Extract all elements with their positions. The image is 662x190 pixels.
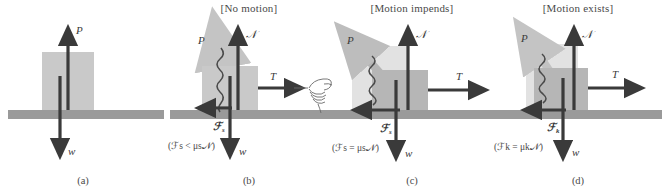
panel-b-formula: (ℱs < μs𝒩) xyxy=(168,140,215,152)
panel-b: [No motion] xyxy=(166,0,332,190)
label-n: 𝒩 xyxy=(416,28,430,40)
label-t: T xyxy=(270,70,277,82)
friction-figure: P w (a) [No motion] xyxy=(0,0,662,190)
panel-d: [Motion exists] xyxy=(494,0,662,190)
label-p: P xyxy=(197,34,205,46)
label-friction: ℱs xyxy=(213,120,225,134)
panel-c-caption: (c) xyxy=(330,175,494,186)
label-t: T xyxy=(456,70,463,82)
label-p: P xyxy=(75,24,83,36)
label-friction: ℱs xyxy=(380,122,392,136)
label-w: w xyxy=(68,145,76,157)
label-n: 𝒩 xyxy=(246,28,260,40)
panel-c-formula: (ℱs = μs𝒩) xyxy=(332,142,379,154)
panel-a-diagram: P w xyxy=(0,0,166,190)
label-p: P xyxy=(346,34,354,46)
panel-d-diagram: P 𝒩 T w ℱk xyxy=(494,0,662,190)
panel-d-caption: (d) xyxy=(494,175,662,186)
label-w: w xyxy=(405,147,413,159)
label-t: T xyxy=(612,68,619,80)
hand-illustration xyxy=(309,79,332,113)
label-p: P xyxy=(520,32,528,44)
label-w: w xyxy=(572,146,580,158)
ground-surface xyxy=(170,110,332,119)
panel-a-caption: (a) xyxy=(0,175,166,186)
ground-surface xyxy=(494,110,662,119)
panel-b-diagram: P 𝒩 T w ℱs xyxy=(166,0,332,190)
label-w: w xyxy=(239,145,247,157)
label-n: 𝒩 xyxy=(582,28,596,40)
ground-surface xyxy=(332,110,494,119)
panel-d-formula: (ℱk = μk𝒩) xyxy=(494,141,543,153)
panel-b-caption: (b) xyxy=(166,175,332,186)
label-friction: ℱk xyxy=(547,121,560,135)
panel-a: P w (a) xyxy=(0,0,166,190)
panel-c-diagram: P 𝒩 T w ℱs xyxy=(330,0,494,190)
panel-c: [Motion impends] xyxy=(330,0,494,190)
block-body xyxy=(372,70,428,110)
ground-surface xyxy=(8,110,164,119)
